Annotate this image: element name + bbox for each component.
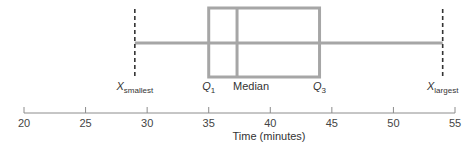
tick-label: 50 (387, 117, 399, 129)
median-label: Median (233, 80, 269, 92)
q1-label: Q1 (202, 80, 216, 95)
tick-label: 55 (449, 117, 461, 129)
tick-label: 30 (141, 117, 153, 129)
tick-label: 40 (264, 117, 276, 129)
tick-label: 45 (326, 117, 338, 129)
x-smallest-label: Xsmallest (115, 80, 153, 95)
q3-label: Q3 (313, 80, 327, 95)
time-axis: 2025303540455055Time (minutes) (18, 107, 461, 142)
tick-label: 25 (79, 117, 91, 129)
tick-label: 20 (18, 117, 30, 129)
plot-area (135, 8, 443, 78)
tick-label: 35 (203, 117, 215, 129)
stat-labels: XsmallestQ1MedianQ3Xlargest (115, 80, 459, 95)
box-plot-diagram: 2025303540455055Time (minutes) Xsmallest… (0, 0, 471, 145)
axis-title: Time (minutes) (233, 130, 306, 142)
x-largest-label: Xlargest (426, 80, 459, 95)
